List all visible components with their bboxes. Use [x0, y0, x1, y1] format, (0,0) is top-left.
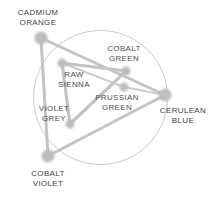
node-dot-cobalt-violet[interactable] — [42, 150, 55, 163]
node-dot-prussian-green[interactable] — [120, 83, 129, 92]
label-raw-sienna-line2: SIENNA — [50, 80, 98, 90]
label-cadmium-orange: CADMIUMORANGE — [2, 8, 74, 27]
label-cobalt-violet: COBALTVIOLET — [17, 169, 79, 188]
label-violet-grey-line1: VIOLET — [30, 104, 78, 114]
label-cerulean-blue: CERULEANBLUE — [152, 106, 214, 125]
label-cobalt-green-line1: COBALT — [97, 44, 151, 54]
label-cerulean-blue-line2: BLUE — [152, 116, 214, 126]
label-prussian-green-line1: PRUSSIAN — [88, 93, 146, 103]
edge-violet-orange — [41, 38, 48, 156]
node-dot-raw-sienna[interactable] — [58, 59, 67, 68]
node-dot-cerulean-blue[interactable] — [159, 89, 172, 102]
label-raw-sienna: RAWSIENNA — [50, 70, 98, 89]
palette-triangle-diagram: CADMIUMORANGECERULEANBLUECOBALTVIOLETCOB… — [0, 0, 216, 198]
label-cerulean-blue-line1: CERULEAN — [152, 106, 214, 116]
label-cobalt-green: COBALTGREEN — [97, 44, 151, 63]
label-prussian-green: PRUSSIANGREEN — [88, 93, 146, 112]
label-violet-grey: VIOLETGREY — [30, 104, 78, 123]
label-cobalt-violet-line1: COBALT — [17, 169, 79, 179]
label-prussian-green-line2: GREEN — [88, 103, 146, 113]
label-cadmium-orange-line2: ORANGE — [2, 18, 74, 28]
label-violet-grey-line2: GREY — [30, 114, 78, 124]
node-dot-cobalt-green[interactable] — [122, 67, 131, 76]
label-cobalt-green-line2: GREEN — [97, 54, 151, 64]
node-dot-cadmium-orange[interactable] — [35, 32, 48, 45]
label-cadmium-orange-line1: CADMIUM — [2, 8, 74, 18]
label-raw-sienna-line1: RAW — [50, 70, 98, 80]
label-cobalt-violet-line2: VIOLET — [17, 179, 79, 189]
